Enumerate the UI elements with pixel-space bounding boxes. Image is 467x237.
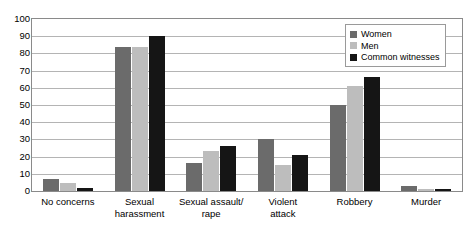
bar-group [186,19,236,191]
bar [258,139,274,191]
legend-swatch-icon [350,31,357,38]
bar [275,165,291,191]
y-axis-tick-label: 90 [0,31,30,41]
y-axis: 1009080706050403020100 [0,12,30,194]
bar-group [115,19,165,191]
bar-group [43,19,93,191]
legend-swatch-icon [350,54,357,61]
bar [203,151,219,191]
y-axis-tick-label: 40 [0,117,30,127]
legend-item: Common witnesses [350,52,440,63]
y-axis-tick-label: 0 [0,186,30,196]
y-axis-tick-label: 30 [0,134,30,144]
bar [186,163,202,191]
legend-label: Men [361,41,379,51]
bar-group [258,19,308,191]
bar [115,47,131,191]
legend-label: Common witnesses [361,52,440,62]
bar [132,47,148,191]
bar [60,183,76,191]
bar [77,188,93,191]
bar [401,186,417,191]
bar [347,86,363,191]
y-axis-tick-label: 100 [0,14,30,24]
x-axis-tick-label: Murder [384,196,467,208]
y-axis-tick-label: 10 [0,169,30,179]
bar [292,155,308,191]
bar-chart: 1009080706050403020100 No concernsSexual… [0,0,467,237]
bar [220,146,236,191]
bar [364,77,380,191]
y-axis-tick-label: 50 [0,100,30,110]
y-axis-tick-label: 20 [0,152,30,162]
legend-item: Men [350,40,440,51]
bar [43,179,59,191]
chart-legend: WomenMenCommon witnesses [345,24,446,67]
bar [435,189,451,191]
bar [149,36,165,191]
bar [330,105,346,191]
x-axis: No concernsSexual harassmentSexual assau… [32,196,462,236]
y-axis-tick-label: 60 [0,83,30,93]
y-axis-tick-label: 80 [0,48,30,58]
bar [418,189,434,191]
legend-swatch-icon [350,42,357,49]
legend-item: Women [350,29,440,40]
y-axis-tick-label: 70 [0,66,30,76]
legend-label: Women [361,29,392,39]
